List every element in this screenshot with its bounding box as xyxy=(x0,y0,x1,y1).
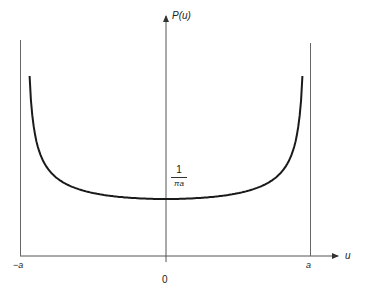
fraction-bar xyxy=(171,177,187,178)
min-value-annotation: 1 πa xyxy=(171,164,187,188)
plot-canvas xyxy=(0,0,366,302)
fraction-numerator: 1 xyxy=(175,164,183,175)
fraction-denominator: πa xyxy=(174,179,184,188)
x-tick-origin: 0 xyxy=(162,275,168,285)
x-axis-label: u xyxy=(345,251,351,261)
y-axis-label: P(u) xyxy=(172,11,191,21)
x-tick-pos-a: a xyxy=(306,261,311,270)
x-tick-neg-a: −a xyxy=(13,261,23,270)
